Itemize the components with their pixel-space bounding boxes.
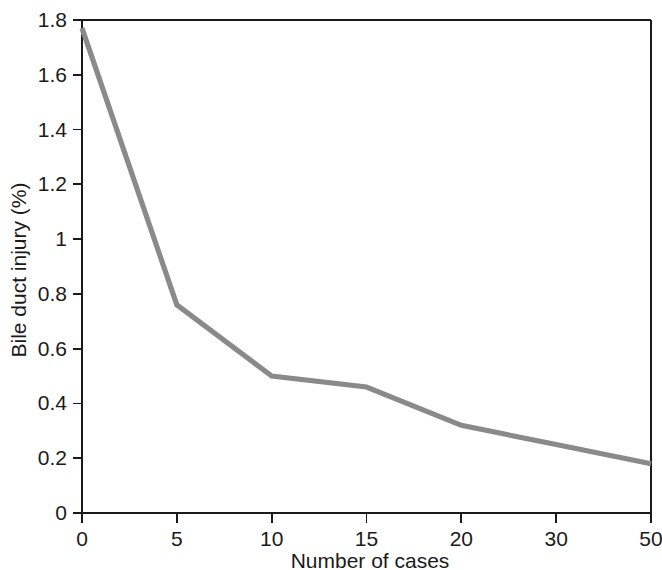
x-axis-title: Number of cases <box>291 549 450 570</box>
x-tick-label: 0 <box>76 527 88 550</box>
data-series-group <box>82 28 651 463</box>
y-tick-label: 0.6 <box>38 337 67 360</box>
y-tick-label: 1.4 <box>38 118 68 141</box>
x-tick-label: 10 <box>260 527 283 550</box>
y-tick-label: 1.2 <box>38 172 67 195</box>
y-tick-label: 0.4 <box>38 391 68 414</box>
x-tick-label: 30 <box>544 527 567 550</box>
y-tick-label: 0 <box>55 501 67 524</box>
y-axis-ticks: 00.20.40.60.811.21.41.61.8 <box>38 8 82 524</box>
x-axis-ticks: 051015203050 <box>76 513 662 550</box>
y-tick-label: 1 <box>55 227 67 250</box>
data-line-bile-duct-injury <box>82 28 651 463</box>
x-tick-label: 20 <box>450 527 473 550</box>
x-tick-label: 50 <box>639 527 662 550</box>
y-tick-label: 1.6 <box>38 63 67 86</box>
x-tick-label: 15 <box>355 527 378 550</box>
y-tick-label: 1.8 <box>38 8 67 31</box>
y-tick-label: 0.2 <box>38 446 67 469</box>
chart-figure: 00.20.40.60.811.21.41.61.8 051015203050 … <box>0 0 662 570</box>
y-tick-label: 0.8 <box>38 282 67 305</box>
y-axis-title: Bile duct injury (%) <box>7 182 30 357</box>
x-tick-label: 5 <box>171 527 183 550</box>
plot-frame <box>82 20 651 513</box>
line-chart: 00.20.40.60.811.21.41.61.8 051015203050 … <box>0 0 662 570</box>
